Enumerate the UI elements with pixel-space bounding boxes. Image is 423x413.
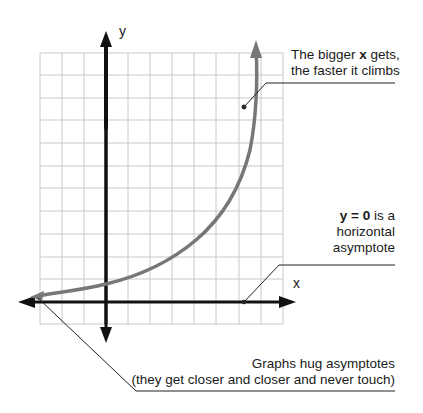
asymptote-annotation: y = 0 is a horizontal asymptote — [333, 208, 395, 256]
grid — [40, 53, 283, 324]
hug-annotation: Graphs hug asymptotes (they get closer a… — [132, 356, 395, 388]
y-axis — [100, 31, 112, 343]
growth-annotation: The bigger x gets, the faster it climbs — [291, 47, 400, 79]
growth-leader — [244, 83, 395, 107]
asymptote-leader — [244, 265, 395, 302]
x-axis — [18, 296, 296, 308]
exponential-curve — [30, 40, 262, 301]
x-axis-label: x — [293, 275, 300, 291]
y-axis-label: y — [119, 23, 126, 39]
curve-top-arrow-icon — [250, 40, 262, 58]
y-axis-up-arrow-icon — [100, 31, 112, 47]
y-axis-down-arrow-icon — [100, 327, 112, 343]
x-axis-right-arrow-icon — [279, 296, 296, 308]
